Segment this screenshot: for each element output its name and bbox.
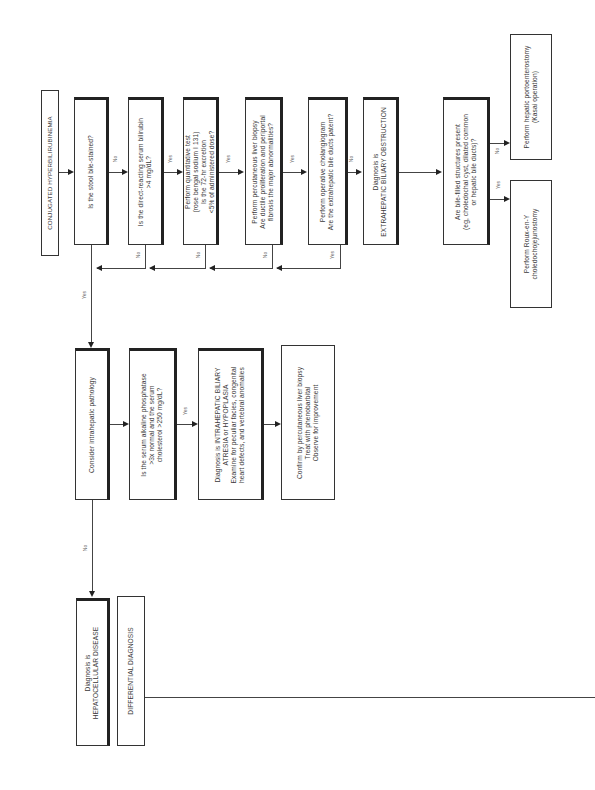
node-label: Diagnosis is INTRAHEPATIC BILIARY ATRESI… bbox=[214, 367, 246, 484]
arrow-down-icon bbox=[89, 591, 95, 597]
edge-biopsy-no bbox=[272, 245, 273, 269]
node-label: DIFFERENTIAL DIAGNOSIS bbox=[127, 627, 135, 714]
node-stool-bile-stained: Is the stool bile-stained? bbox=[74, 97, 109, 245]
edge-label-yes: Yes bbox=[225, 155, 231, 163]
arrow-right-icon bbox=[436, 169, 442, 175]
node-label: Perform operative cholangiogram Are the … bbox=[319, 114, 335, 230]
edge-quant-biopsy bbox=[219, 172, 239, 173]
node-bile-filled-structures: Are bile-filled structures present (eg, … bbox=[443, 97, 490, 245]
node-label: Is the serum alkaline phosphatase >3x no… bbox=[140, 373, 164, 476]
node-hepatocellular-disease: Diagnosis is HEPATOCELLULAR DISEASE bbox=[76, 598, 110, 746]
edge-biopsy-no bbox=[210, 268, 272, 269]
node-label: Perform percutaneous liver biopsy Are du… bbox=[251, 115, 275, 229]
arrow-left-icon bbox=[96, 265, 102, 271]
node-confirm-biopsy: Confirm by percutaneous liver biopsy Tre… bbox=[281, 345, 335, 500]
edge-intrahepatic-alk bbox=[110, 424, 124, 425]
node-roux-en-y: Perform Roux-en-Y choledochojejunostomy bbox=[510, 180, 552, 308]
node-alkaline-phosphatase: Is the serum alkaline phosphatase >3x no… bbox=[129, 348, 177, 500]
edge-label-yes: Yes bbox=[167, 155, 173, 163]
edge-bile-kasai bbox=[490, 143, 505, 144]
arrow-right-icon bbox=[301, 169, 307, 175]
node-liver-biopsy: Perform percutaneous liver biopsy Are du… bbox=[245, 97, 283, 245]
edge-bilirubin-no bbox=[145, 245, 146, 269]
edge-label-no: No bbox=[262, 252, 268, 258]
node-kasai-operation: Perform hepatic portoenterostomy (Kasai … bbox=[510, 34, 552, 160]
edge-label-no: No bbox=[494, 148, 500, 154]
edge-bilirubin-no bbox=[97, 268, 145, 269]
node-label: Perform hepatic portoenterostomy (Kasai … bbox=[523, 46, 539, 149]
arrow-right-icon bbox=[356, 169, 362, 175]
arrow-right-icon bbox=[238, 169, 244, 175]
edge-label-no: No bbox=[135, 252, 141, 258]
edge-cholangiogram-yes bbox=[340, 245, 341, 269]
node-intrahepatic-atresia: Diagnosis is INTRAHEPATIC BILIARY ATRESI… bbox=[198, 348, 264, 500]
node-extrahepatic-obstruction: Diagnosis is EXTRAHEPATIC BILIARY OBSTRU… bbox=[363, 97, 399, 245]
arrow-left-icon bbox=[149, 265, 155, 271]
arrow-left-icon bbox=[209, 265, 215, 271]
node-differential-diagnosis: DIFFERENTIAL DIAGNOSIS bbox=[117, 596, 145, 746]
node-operative-cholangiogram: Perform operative cholangiogram Are the … bbox=[308, 97, 348, 245]
edge-label-yes: Yes bbox=[495, 181, 501, 189]
node-direct-bilirubin: Is the direct-reacting serum bilirubin >… bbox=[128, 97, 164, 245]
node-label: Confirm by percutaneous liver biopsy Tre… bbox=[296, 366, 320, 478]
node-intrahepatic-pathology: Consider intrahepatic pathology bbox=[75, 348, 110, 500]
node-label: Diagnosis is HEPATOCELLULAR DISEASE bbox=[84, 627, 100, 720]
edge-label-no: No bbox=[195, 252, 201, 258]
edge-extrahepatic-bile bbox=[399, 172, 437, 173]
edge-quant-no bbox=[150, 268, 205, 269]
edge-stool-yes bbox=[91, 245, 92, 343]
edge-label-yes: Yes bbox=[182, 407, 188, 415]
edge-biopsy-cholangiogram bbox=[283, 172, 302, 173]
edge-bile-roux bbox=[490, 199, 505, 200]
edge-intrahepatic-no bbox=[92, 500, 93, 592]
node-label: Diagnosis is EXTRAHEPATIC BILIARY OBSTRU… bbox=[372, 107, 388, 236]
node-label: Are bile-filled structures present (eg, … bbox=[454, 114, 478, 230]
node-quantitative-test: Perform quantitative test (rose bengal s… bbox=[183, 97, 219, 245]
edge-stool-bilirubin bbox=[109, 172, 123, 173]
node-label: Perform Roux-en-Y choledochojejunostomy bbox=[523, 208, 539, 279]
edge-alk-intra-diag bbox=[177, 424, 193, 425]
node-label: Consider intrahepatic pathology bbox=[88, 377, 96, 473]
edge-label-yes: Yes bbox=[329, 251, 335, 259]
node-label: Perform quantitative test (rose bengal s… bbox=[184, 131, 216, 214]
edge-label-no: No bbox=[112, 156, 118, 162]
edge-label-no: No bbox=[82, 545, 88, 551]
node-label: Is the stool bile-stained? bbox=[87, 135, 95, 209]
edge-quant-no bbox=[205, 245, 206, 269]
node-conjugated-hyperbilirubinemia: CONJUGATED HYPERBILIRUBINEMIA bbox=[41, 90, 59, 256]
node-label: CONJUGATED HYPERBILIRUBINEMIA bbox=[46, 116, 54, 230]
edge-differential-continuation bbox=[145, 697, 595, 698]
edge-label-no: No bbox=[348, 156, 354, 162]
edge-cholangiogram-yes bbox=[277, 268, 340, 269]
edge-label-yes: Yes bbox=[81, 291, 87, 299]
edge-bilirubin-quant bbox=[164, 172, 178, 173]
node-label: Is the direct-reacting serum bilirubin >… bbox=[137, 118, 153, 226]
arrow-left-icon bbox=[276, 265, 282, 271]
edge-label-yes: Yes bbox=[289, 155, 295, 163]
